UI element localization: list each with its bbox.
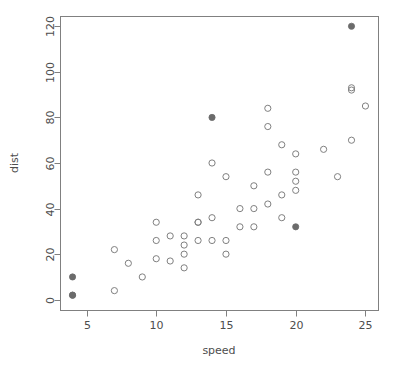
- data-point-open: [237, 205, 243, 211]
- data-point-open: [321, 146, 327, 152]
- data-point-open: [125, 260, 131, 266]
- x-tick-label: 25: [359, 319, 373, 332]
- data-point-open: [348, 137, 354, 143]
- y-axis: 020406080100120: [44, 16, 61, 304]
- data-point-open: [111, 247, 117, 253]
- data-point-open: [265, 201, 271, 207]
- y-tick-label: 100: [44, 62, 57, 83]
- data-point-open: [251, 183, 257, 189]
- data-point-open: [293, 151, 299, 157]
- data-point-open: [153, 256, 159, 262]
- series-highlighted: [69, 23, 354, 298]
- data-point-filled: [348, 23, 354, 29]
- data-point-open: [209, 215, 215, 221]
- data-point-open: [181, 242, 187, 248]
- data-point-open: [181, 233, 187, 239]
- x-tick-label: 10: [150, 319, 164, 332]
- scatter-plot-figure: 510152025speed020406080100120dist: [0, 0, 395, 371]
- data-point-open: [362, 103, 368, 109]
- data-point-open: [265, 105, 271, 111]
- data-point-open: [209, 237, 215, 243]
- y-tick-label: 80: [44, 111, 57, 125]
- data-point-open: [195, 237, 201, 243]
- x-tick-label: 5: [84, 319, 91, 332]
- series-open: [69, 85, 368, 299]
- plot-frame: [61, 17, 379, 311]
- data-point-open: [223, 251, 229, 257]
- data-point-open: [223, 174, 229, 180]
- data-point-filled: [209, 114, 215, 120]
- data-point-open: [279, 215, 285, 221]
- data-point-open: [265, 169, 271, 175]
- data-point-open: [195, 192, 201, 198]
- data-point-open: [181, 251, 187, 257]
- y-axis-title: dist: [8, 152, 21, 173]
- data-point-open: [209, 160, 215, 166]
- data-point-open: [279, 192, 285, 198]
- data-point-open: [293, 169, 299, 175]
- data-point-filled: [69, 292, 75, 298]
- data-point-open: [279, 142, 285, 148]
- data-point-open: [195, 219, 201, 225]
- data-point-open: [223, 237, 229, 243]
- x-tick-label: 20: [290, 319, 304, 332]
- data-point-open: [334, 174, 340, 180]
- x-tick-label: 15: [220, 319, 234, 332]
- data-point-open: [293, 178, 299, 184]
- y-tick-label: 40: [44, 203, 57, 217]
- y-tick-label: 20: [44, 248, 57, 262]
- data-point-open: [167, 233, 173, 239]
- data-point-open: [153, 219, 159, 225]
- y-tick-label: 120: [44, 16, 57, 37]
- data-point-open: [139, 274, 145, 280]
- x-axis: 510152025: [84, 311, 373, 333]
- data-point-open: [293, 187, 299, 193]
- plot-canvas: 510152025speed020406080100120dist: [0, 0, 395, 371]
- y-tick-label: 0: [44, 297, 57, 304]
- data-point-filled: [293, 224, 299, 230]
- data-point-open: [251, 205, 257, 211]
- y-tick-label: 60: [44, 157, 57, 171]
- data-point-open: [237, 224, 243, 230]
- data-point-open: [111, 288, 117, 294]
- data-point-open: [251, 224, 257, 230]
- data-point-open: [167, 258, 173, 264]
- data-point-open: [153, 237, 159, 243]
- x-axis-title: speed: [202, 344, 235, 357]
- data-point-open: [181, 265, 187, 271]
- data-point-filled: [69, 274, 75, 280]
- data-point-open: [265, 123, 271, 129]
